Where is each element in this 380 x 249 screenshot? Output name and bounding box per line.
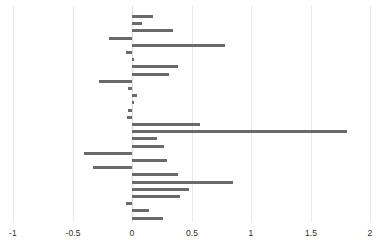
bar	[93, 166, 132, 169]
x-tick-label: 2	[368, 228, 373, 238]
bar	[126, 202, 132, 205]
bar	[132, 173, 178, 176]
bar	[132, 209, 149, 212]
x-tick-label: 1	[249, 228, 254, 238]
bar	[132, 188, 189, 191]
bar	[128, 109, 132, 112]
x-tick-label: 0.5	[186, 228, 198, 238]
bar	[132, 44, 225, 47]
x-axis: -1-0.500.511.52	[0, 222, 380, 249]
x-tick-label: -1	[9, 228, 17, 238]
gridline-neg0p5	[73, 6, 74, 222]
bar	[84, 152, 132, 155]
bar	[109, 37, 132, 40]
gridline-neg1	[13, 6, 14, 222]
bar	[132, 29, 173, 32]
bar	[128, 87, 132, 90]
bar	[132, 123, 200, 126]
bar	[132, 181, 233, 184]
bar	[132, 217, 163, 220]
bar	[132, 58, 134, 61]
gridline-1	[251, 6, 252, 222]
bar	[127, 116, 132, 119]
bar	[99, 80, 132, 83]
bar	[126, 51, 132, 54]
x-tick-label: 1.5	[305, 228, 317, 238]
bar	[132, 137, 157, 140]
bar	[132, 145, 164, 148]
x-tick-label: 0	[130, 228, 135, 238]
plot-area	[0, 0, 380, 222]
bar-chart: -1-0.500.511.52	[0, 0, 380, 249]
x-tick-label: -0.5	[65, 228, 80, 238]
bar	[132, 130, 347, 133]
bar	[132, 159, 167, 162]
gridline-0p5	[192, 6, 193, 222]
bar	[132, 73, 169, 76]
gridline-2	[370, 6, 371, 222]
bar	[132, 195, 180, 198]
bar	[132, 101, 134, 104]
bar	[132, 94, 137, 97]
bar	[132, 22, 142, 25]
bar	[132, 65, 178, 68]
bar	[132, 15, 153, 18]
gridline-1p5	[311, 6, 312, 222]
